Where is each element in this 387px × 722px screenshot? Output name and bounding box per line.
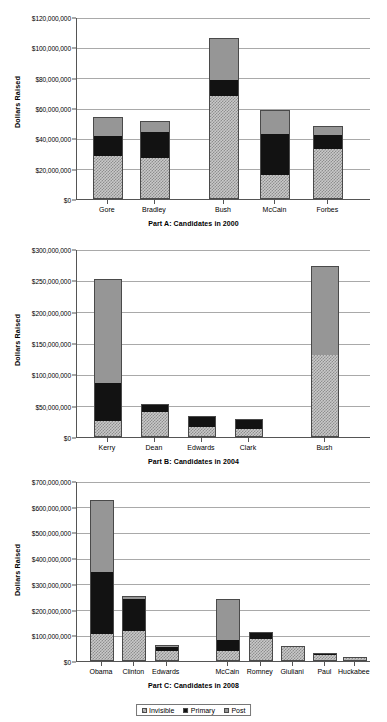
bar-segment-invisible (91, 634, 113, 660)
chart-page: Dollars Raised $0$20,000,000$40,000,000$… (0, 0, 387, 722)
legend-item-primary: Primary (183, 707, 215, 714)
y-tick-label: $300,000,000 (32, 247, 71, 254)
y-axis-ticks-b: $0$50,000,000$100,000,000$150,000,000$20… (0, 250, 76, 438)
bar-segment-invisible (236, 429, 262, 436)
bar-segment-invisible (314, 655, 336, 660)
x-tick-label: Edwards (152, 668, 179, 675)
bar-segment-primary (94, 136, 122, 156)
panel-title-c: Part C: Candidates in 2008 (0, 682, 387, 689)
x-tick-label: Obama (90, 668, 113, 675)
bar-segment-post (141, 122, 169, 132)
x-tick-mark (201, 438, 202, 442)
x-tick-label: Paul (317, 668, 331, 675)
legend-label: Primary (191, 707, 215, 714)
bar-segment-invisible (217, 651, 239, 660)
plot-area-b (76, 250, 370, 438)
plot-part-c: Dollars Raised $0$100,000,000$200,000,00… (0, 472, 387, 672)
plot-part-b: Dollars Raised $0$50,000,000$100,000,000… (0, 238, 387, 443)
y-tick-label: $40,000,000 (35, 136, 71, 143)
x-tick-label: Bradley (142, 206, 166, 213)
y-tick-label: $400,000,000 (32, 556, 71, 563)
y-tick-label: $80,000,000 (35, 75, 71, 82)
x-tick-mark (274, 200, 275, 204)
bar-segment-primary (261, 134, 289, 176)
bar-segment-primary (236, 420, 262, 429)
y-tick-label: $150,000,000 (32, 341, 71, 348)
panel-part-b: Dollars Raised $0$50,000,000$100,000,000… (0, 238, 387, 470)
legend-item-invisible: Invisible (142, 707, 175, 714)
bar-segment-invisible (210, 96, 238, 198)
bar-mccain (216, 599, 240, 661)
x-tick-mark (223, 200, 224, 204)
bar-paul (313, 653, 337, 661)
x-tick-label: Giuliani (280, 668, 303, 675)
y-tick-label: $100,000,000 (32, 633, 71, 640)
x-tick-mark (101, 662, 102, 666)
x-tick-label: Dean (146, 444, 163, 451)
y-tick-label: $200,000,000 (32, 607, 71, 614)
legend-label: Invisible (149, 707, 174, 714)
bar-romney (249, 632, 273, 661)
chart-legend: InvisiblePrimaryPost (136, 704, 252, 716)
bar-segment-invisible (344, 658, 366, 660)
y-tick-label: $300,000,000 (32, 581, 71, 588)
x-tick-label: Clinton (122, 668, 144, 675)
bar-bush (311, 266, 339, 437)
x-tick-mark (227, 662, 228, 666)
y-tick-label: $200,000,000 (32, 309, 71, 316)
x-tick-label: Bush (316, 444, 332, 451)
bar-edwards (188, 416, 216, 437)
y-tick-label: $0 (64, 197, 71, 204)
x-tick-label: Edwards (187, 444, 214, 451)
y-tick-label: $250,000,000 (32, 278, 71, 285)
bar-segment-invisible (314, 149, 342, 198)
y-tick-label: $50,000,000 (35, 403, 71, 410)
y-tick-label: $100,000,000 (32, 372, 71, 379)
bar-segment-invisible (261, 175, 289, 198)
x-tick-mark (133, 662, 134, 666)
x-tick-mark (292, 662, 293, 666)
bar-gore (93, 117, 123, 199)
bar-bradley (140, 121, 170, 199)
bar-edwards (155, 645, 179, 661)
bar-segment-post (95, 280, 121, 383)
bar-segment-invisible (141, 158, 169, 198)
x-tick-mark (107, 438, 108, 442)
bar-segment-primary (91, 572, 113, 634)
bar-segment-invisible (250, 639, 272, 661)
legend-swatch-primary-icon (183, 708, 188, 713)
panel-part-a: Dollars Raised $0$20,000,000$40,000,000$… (0, 0, 387, 232)
bar-obama (90, 500, 114, 661)
gridline (77, 18, 370, 19)
bar-segment-invisible (156, 651, 178, 660)
y-tick-label: $500,000,000 (32, 530, 71, 537)
gridline (77, 507, 370, 508)
gridline (77, 533, 370, 534)
plot-area-c (76, 482, 370, 662)
y-tick-label: $120,000,000 (32, 15, 71, 22)
bar-huckabee (343, 657, 367, 661)
x-tick-mark (327, 200, 328, 204)
bar-segment-invisible (282, 647, 304, 660)
y-tick-label: $0 (64, 659, 71, 666)
panel-title-b: Part B: Candidates in 2004 (0, 458, 387, 465)
panel-part-c: Dollars Raised $0$100,000,000$200,000,00… (0, 472, 387, 722)
bar-segment-post (94, 118, 122, 136)
bar-segment-primary (189, 417, 215, 427)
x-tick-mark (154, 200, 155, 204)
bar-segment-invisible (312, 355, 338, 436)
bar-segment-invisible (94, 156, 122, 198)
x-tick-mark (154, 438, 155, 442)
x-tick-mark (248, 438, 249, 442)
x-tick-label: Huckabee (338, 668, 370, 675)
x-tick-label: McCain (263, 206, 287, 213)
x-tick-label: Kerry (98, 444, 115, 451)
x-tick-label: Clark (240, 444, 256, 451)
bar-segment-invisible (142, 412, 168, 436)
bar-segment-primary (210, 80, 238, 96)
legend-label: Post (231, 707, 245, 714)
x-tick-mark (166, 662, 167, 666)
y-tick-label: $600,000,000 (32, 504, 71, 511)
x-axis-labels-b: KerryDeanEdwardsClarkBush (76, 438, 370, 460)
bar-dean (141, 404, 169, 437)
